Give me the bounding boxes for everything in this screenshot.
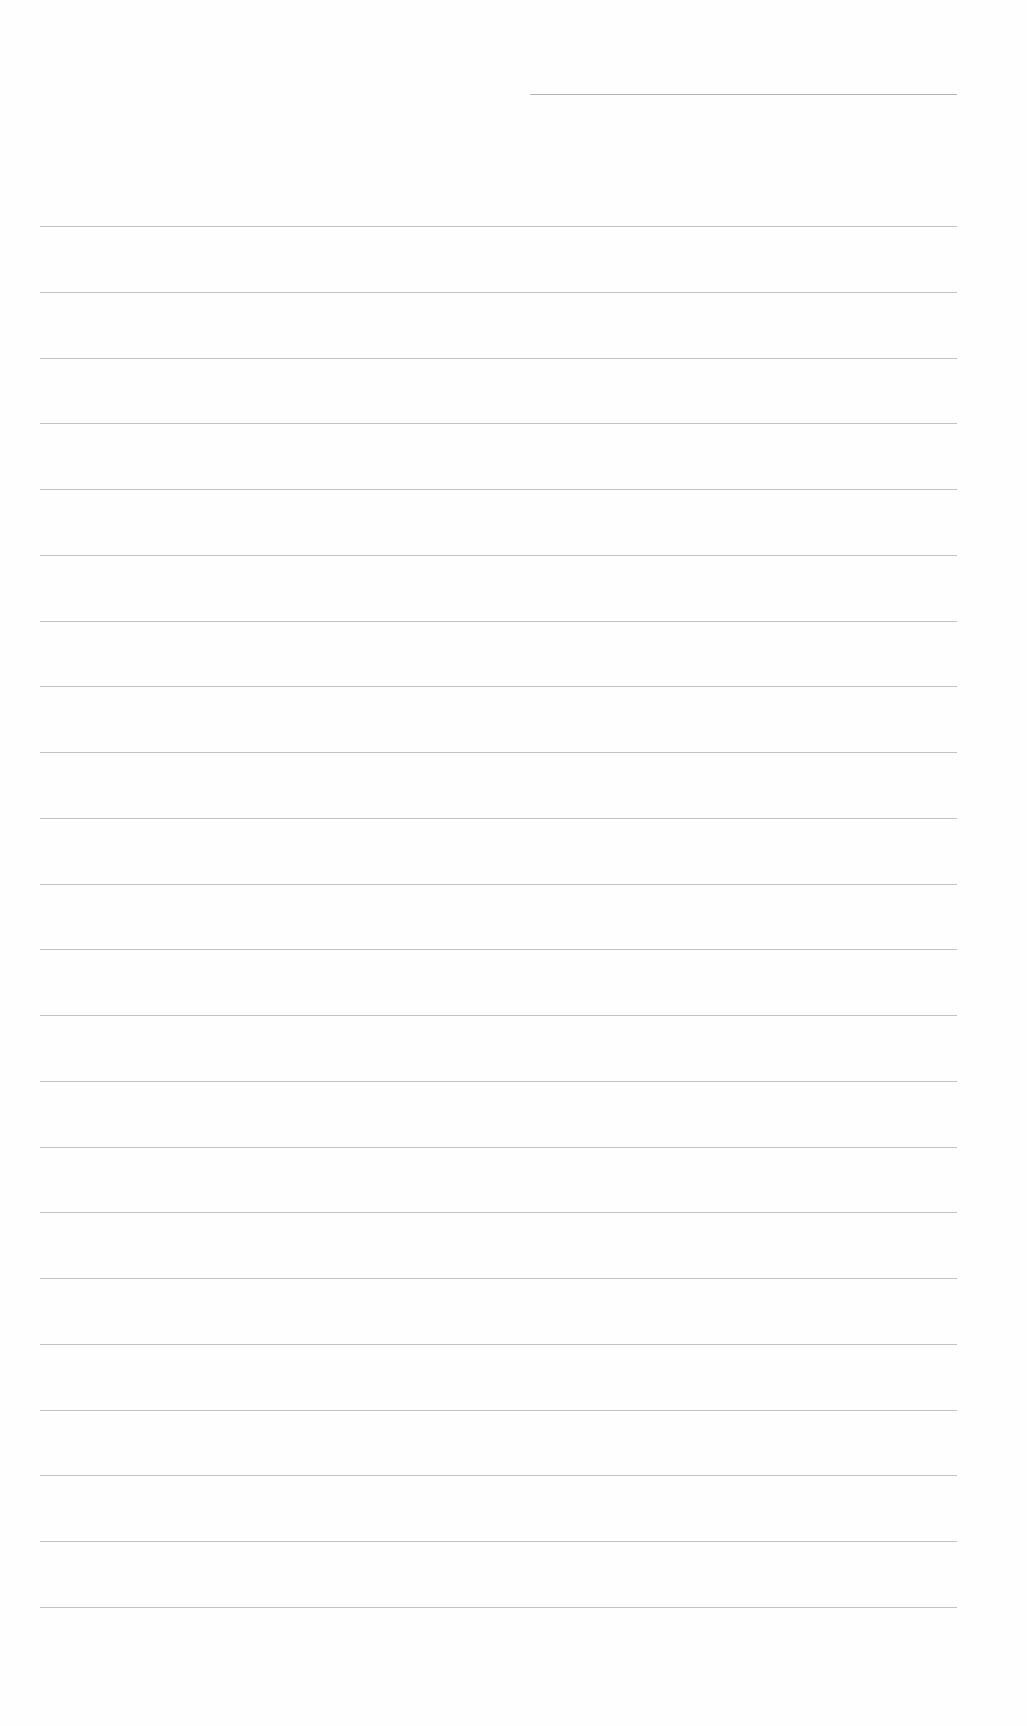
ruled-line <box>40 292 957 293</box>
ruled-line <box>40 1212 957 1213</box>
ruled-line <box>40 1015 957 1016</box>
ruled-line <box>40 818 957 819</box>
ruled-line <box>40 489 957 490</box>
ruled-line <box>40 1278 957 1279</box>
ruled-line <box>40 1475 957 1476</box>
ruled-line <box>40 358 957 359</box>
ruled-line <box>40 686 957 687</box>
ruled-line <box>40 1541 957 1542</box>
ruled-line <box>40 1607 957 1608</box>
ruled-line <box>40 226 957 227</box>
ruled-line <box>40 1344 957 1345</box>
ruled-line <box>40 1410 957 1411</box>
ruled-line <box>40 621 957 622</box>
ruled-lines-container <box>40 0 957 1726</box>
ruled-line <box>40 1147 957 1148</box>
lined-page <box>0 0 1027 1726</box>
ruled-line <box>40 423 957 424</box>
ruled-line <box>40 1081 957 1082</box>
ruled-line <box>40 949 957 950</box>
ruled-line <box>40 884 957 885</box>
ruled-line <box>40 752 957 753</box>
ruled-line <box>40 555 957 556</box>
